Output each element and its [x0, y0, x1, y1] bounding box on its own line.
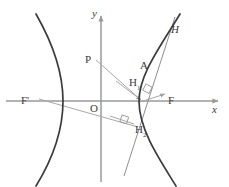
- point-label-p: P: [85, 54, 91, 65]
- point-label-h1-base: H: [129, 76, 137, 88]
- point-label-h2-subscript: 2: [143, 131, 147, 139]
- hyperbola-curve-group: [36, 14, 180, 186]
- figure-canvas: [0, 0, 229, 187]
- point-label-o: O: [90, 103, 98, 114]
- point-label-f-prime: F': [21, 95, 29, 106]
- point-label-a: A: [140, 60, 148, 71]
- point-label-h1: H1: [129, 77, 140, 91]
- point-label-h1-subscript: 1: [137, 84, 141, 92]
- point-label-f: F: [168, 95, 174, 106]
- hyperbola-left-branch: [36, 14, 63, 186]
- axes-group: [6, 16, 218, 182]
- y-axis-label: y: [92, 8, 97, 19]
- point-label-h2: H2: [135, 124, 146, 138]
- hyperbola-label: H: [171, 24, 179, 35]
- point-label-h2-base: H: [135, 123, 143, 135]
- x-axis-label: x: [212, 104, 217, 115]
- hyperbola-figure: y x H F' F O P A H1 H2: [0, 0, 229, 187]
